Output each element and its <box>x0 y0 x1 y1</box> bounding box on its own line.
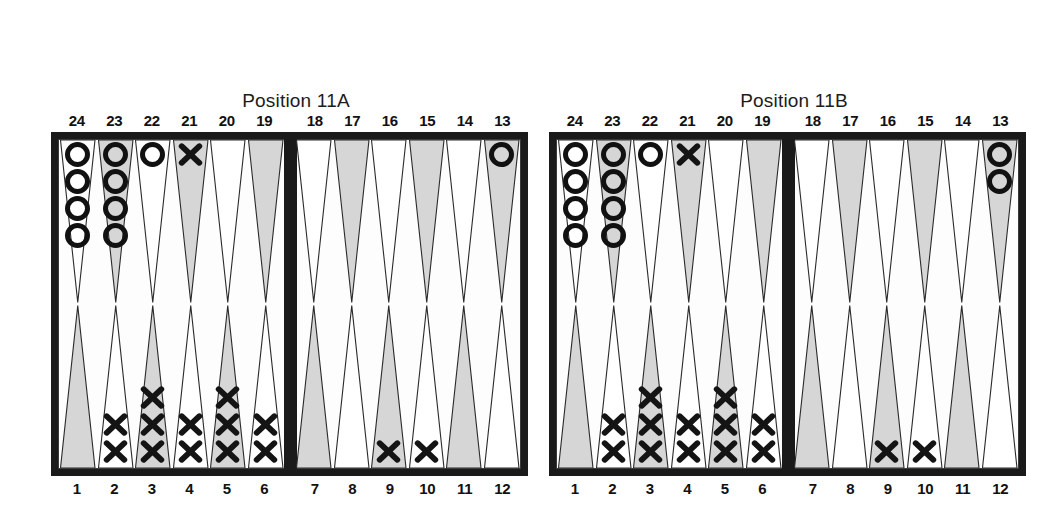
point-number-9: 9 <box>869 480 907 498</box>
point-4[interactable] <box>670 304 708 468</box>
point-number-17: 17 <box>832 112 870 130</box>
point-number-21: 21 <box>171 112 209 130</box>
board-half-left <box>557 140 782 468</box>
point-number-18: 18 <box>794 112 832 130</box>
point-number-4: 4 <box>669 480 707 498</box>
point-3[interactable] <box>632 304 670 468</box>
point-number-11: 11 <box>944 480 982 498</box>
point-16[interactable] <box>868 140 906 304</box>
point-number-10: 10 <box>409 480 447 498</box>
point-9[interactable] <box>370 304 408 468</box>
point-number-23: 23 <box>594 112 632 130</box>
point-number-13: 13 <box>484 112 522 130</box>
point-number-8: 8 <box>832 480 870 498</box>
point-10[interactable] <box>906 304 944 468</box>
point-24[interactable] <box>59 140 97 304</box>
board-half-right <box>295 140 520 468</box>
point-7[interactable] <box>295 304 333 468</box>
point-number-group: 242322212019 <box>58 112 283 130</box>
point-column <box>370 140 408 468</box>
point-15[interactable] <box>906 140 944 304</box>
point-number-group: 181716151413 <box>794 112 1019 130</box>
point-23[interactable] <box>595 140 633 304</box>
point-10[interactable] <box>408 304 446 468</box>
point-24[interactable] <box>557 140 595 304</box>
point-9[interactable] <box>868 304 906 468</box>
point-8[interactable] <box>333 304 371 468</box>
point-23[interactable] <box>97 140 135 304</box>
point-column <box>943 140 981 468</box>
point-number-24: 24 <box>556 112 594 130</box>
board-b-top-numbers: 242322212019181716151413 <box>549 112 1026 130</box>
point-4[interactable] <box>172 304 210 468</box>
point-14[interactable] <box>445 140 483 304</box>
point-21[interactable] <box>172 140 210 304</box>
point-19[interactable] <box>247 140 285 304</box>
point-20[interactable] <box>707 140 745 304</box>
point-5[interactable] <box>707 304 745 468</box>
point-number-20: 20 <box>706 112 744 130</box>
point-18[interactable] <box>295 140 333 304</box>
point-number-15: 15 <box>409 112 447 130</box>
point-number-1: 1 <box>556 480 594 498</box>
point-3[interactable] <box>134 304 172 468</box>
point-number-group: 242322212019 <box>556 112 781 130</box>
point-column <box>707 140 745 468</box>
point-6[interactable] <box>247 304 285 468</box>
point-21[interactable] <box>670 140 708 304</box>
board-a-top-numbers: 242322212019181716151413 <box>51 112 528 130</box>
board-half-right <box>793 140 1018 468</box>
point-22[interactable] <box>632 140 670 304</box>
point-column <box>557 140 595 468</box>
point-7[interactable] <box>793 304 831 468</box>
board-half-left <box>59 140 284 468</box>
point-19[interactable] <box>745 140 783 304</box>
point-18[interactable] <box>793 140 831 304</box>
point-number-12: 12 <box>982 480 1020 498</box>
point-12[interactable] <box>483 304 521 468</box>
point-number-21: 21 <box>669 112 707 130</box>
point-number-3: 3 <box>631 480 669 498</box>
point-number-7: 7 <box>794 480 832 498</box>
point-column <box>247 140 285 468</box>
point-13[interactable] <box>981 140 1019 304</box>
point-1[interactable] <box>557 304 595 468</box>
point-1[interactable] <box>59 304 97 468</box>
point-number-2: 2 <box>96 480 134 498</box>
point-14[interactable] <box>943 140 981 304</box>
point-column <box>59 140 97 468</box>
point-20[interactable] <box>209 140 247 304</box>
point-number-18: 18 <box>296 112 334 130</box>
point-number-8: 8 <box>334 480 372 498</box>
point-column <box>745 140 783 468</box>
point-number-20: 20 <box>208 112 246 130</box>
point-number-10: 10 <box>907 480 945 498</box>
point-5[interactable] <box>209 304 247 468</box>
point-number-16: 16 <box>869 112 907 130</box>
point-6[interactable] <box>745 304 783 468</box>
point-number-3: 3 <box>133 480 171 498</box>
point-17[interactable] <box>333 140 371 304</box>
point-number-group: 123456 <box>58 480 283 498</box>
point-15[interactable] <box>408 140 446 304</box>
point-22[interactable] <box>134 140 172 304</box>
point-11[interactable] <box>445 304 483 468</box>
point-2[interactable] <box>595 304 633 468</box>
board-b-frame <box>549 132 1026 476</box>
board-a-frame <box>51 132 528 476</box>
point-number-2: 2 <box>594 480 632 498</box>
point-number-19: 19 <box>246 112 284 130</box>
point-17[interactable] <box>831 140 869 304</box>
backgammon-diagram-page: Position 11A X to Play 2 Position 11B X … <box>0 0 1064 526</box>
point-column <box>295 140 333 468</box>
point-12[interactable] <box>981 304 1019 468</box>
point-column <box>868 140 906 468</box>
board-b-bottom-numbers: 123456789101112 <box>549 480 1026 498</box>
point-13[interactable] <box>483 140 521 304</box>
point-column <box>981 140 1019 468</box>
point-2[interactable] <box>97 304 135 468</box>
point-16[interactable] <box>370 140 408 304</box>
point-8[interactable] <box>831 304 869 468</box>
point-11[interactable] <box>943 304 981 468</box>
point-column <box>209 140 247 468</box>
